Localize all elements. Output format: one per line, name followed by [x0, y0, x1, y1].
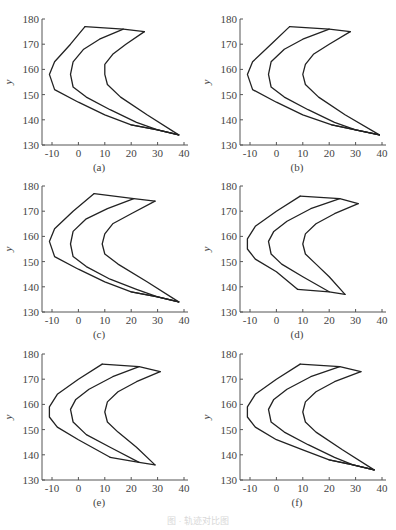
y-tick-label: 160	[221, 398, 238, 410]
panel-label: (a)	[0, 161, 198, 173]
figure-caption: 图 · 轨迹对比图	[0, 514, 396, 527]
panel-d: 130140150160170180-10010203040xy (d)	[198, 175, 396, 345]
y-tick-label: 180	[23, 180, 40, 192]
x-tick-label: 20	[324, 147, 336, 158]
y-tick-label: 160	[221, 63, 238, 75]
y-axis-label: y	[2, 79, 14, 85]
y-tick-label: 150	[221, 89, 238, 101]
panel-label: (f)	[198, 496, 396, 508]
y-tick-label: 180	[221, 13, 238, 25]
x-tick-label: 10	[297, 314, 309, 325]
x-tick-label: 0	[274, 147, 280, 158]
y-tick-label: 180	[23, 348, 40, 360]
y-tick-label: 150	[221, 424, 238, 436]
chart-b: 130140150160170180-10010203040xy	[198, 8, 396, 158]
series-curve2	[269, 367, 375, 470]
x-tick-label: 0	[274, 482, 280, 493]
x-tick-label: 20	[324, 314, 336, 325]
x-tick-label: 30	[152, 147, 164, 158]
x-tick-label: 20	[126, 147, 138, 158]
panel-label: (c)	[0, 328, 198, 340]
y-tick-label: 130	[221, 474, 238, 486]
y-tick-label: 170	[23, 38, 40, 50]
x-tick-label: 10	[99, 482, 111, 493]
x-tick-label: 40	[377, 482, 389, 493]
series-outer	[94, 194, 155, 202]
x-tick-label: 30	[350, 314, 362, 325]
x-tick-label: 20	[126, 314, 138, 325]
series-outer	[85, 27, 144, 32]
y-tick-label: 140	[221, 281, 238, 293]
x-tick-label: 20	[126, 482, 138, 493]
series-bottom	[332, 125, 380, 135]
panel-label: (d)	[198, 328, 396, 340]
series-curve1	[247, 364, 374, 470]
series-curve1	[49, 364, 110, 457]
series-curve3	[102, 201, 179, 302]
y-axis-label: y	[200, 414, 212, 420]
y-tick-label: 150	[221, 256, 238, 268]
x-tick-label: 30	[152, 482, 164, 493]
series-curve2	[71, 199, 179, 302]
y-tick-label: 170	[23, 373, 40, 385]
y-tick-label: 170	[23, 205, 40, 217]
series-curve2	[269, 199, 340, 292]
panel-label: (b)	[198, 161, 396, 173]
axes	[42, 354, 188, 480]
y-tick-label: 180	[23, 13, 40, 25]
x-tick-label: 0	[76, 314, 82, 325]
y-axis-label: y	[2, 414, 14, 420]
y-tick-label: 150	[23, 89, 40, 101]
panel-e: 130140150160170180-10010203040xy (e)	[0, 343, 198, 513]
x-tick-label: 40	[179, 314, 191, 325]
panel-a: 130140150160170180-10010203040xy (a)	[0, 8, 198, 178]
y-tick-label: 160	[23, 230, 40, 242]
series-curve1	[49, 27, 178, 135]
x-tick-label: -10	[243, 147, 258, 158]
axes	[42, 19, 188, 145]
y-tick-label: 140	[23, 114, 40, 126]
panel-f: 130140150160170180-10010203040xy (f)	[198, 343, 396, 513]
y-axis-label: y	[200, 246, 212, 252]
x-tick-label: -10	[243, 314, 258, 325]
y-tick-label: 130	[23, 139, 40, 151]
y-tick-label: 130	[23, 306, 40, 318]
series-outer	[290, 27, 351, 32]
series-curve3	[105, 372, 160, 465]
y-tick-label: 130	[221, 139, 238, 151]
series-curve1	[49, 194, 178, 302]
x-tick-label: 30	[350, 147, 362, 158]
panel-label: (e)	[0, 496, 198, 508]
y-tick-label: 170	[221, 373, 238, 385]
x-tick-label: 10	[297, 147, 309, 158]
chart-f: 130140150160170180-10010203040xy	[198, 343, 396, 493]
series-curve3	[303, 372, 374, 470]
x-tick-label: 10	[99, 147, 111, 158]
axes	[42, 186, 188, 312]
x-tick-label: 10	[297, 482, 309, 493]
y-tick-label: 150	[23, 424, 40, 436]
panel-c: 130140150160170180-10010203040xy (c)	[0, 175, 198, 345]
y-tick-label: 130	[221, 306, 238, 318]
x-tick-label: -10	[243, 482, 258, 493]
y-tick-label: 140	[23, 281, 40, 293]
series-curve1	[247, 27, 379, 135]
x-tick-label: 0	[76, 147, 82, 158]
y-tick-label: 150	[23, 256, 40, 268]
x-tick-label: 20	[324, 482, 336, 493]
series-outer	[102, 364, 160, 372]
x-tick-label: 30	[152, 314, 164, 325]
y-tick-label: 130	[23, 474, 40, 486]
chart-a: 130140150160170180-10010203040xy	[0, 8, 198, 158]
y-tick-label: 140	[23, 449, 40, 461]
x-tick-label: 30	[350, 482, 362, 493]
x-tick-label: 40	[377, 314, 389, 325]
y-tick-label: 160	[221, 230, 238, 242]
y-axis-label: y	[200, 79, 212, 85]
chart-e: 130140150160170180-10010203040xy	[0, 343, 198, 493]
x-tick-label: -10	[45, 482, 60, 493]
x-tick-label: -10	[45, 147, 60, 158]
x-tick-label: 10	[99, 314, 111, 325]
x-tick-label: 40	[179, 147, 191, 158]
series-bottom	[298, 289, 346, 294]
